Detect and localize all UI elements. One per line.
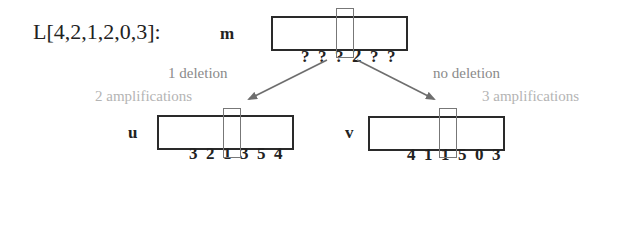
cell: 3 — [189, 144, 198, 163]
cell: 4 — [407, 145, 416, 164]
cell: 3 — [492, 145, 501, 164]
cell: 1 — [424, 145, 433, 164]
cell: 5 — [257, 144, 266, 163]
cell: 4 — [274, 144, 283, 163]
v-sequence-box: 4 1 1 5 0 3 — [368, 116, 505, 151]
deletion-text-u: 1 deletion — [168, 64, 228, 82]
v-highlight-window — [439, 108, 457, 158]
amplification-text-v: 3 amplifications — [482, 87, 579, 105]
cell: 0 — [475, 145, 484, 164]
cell-highlighted: 3 — [240, 144, 249, 163]
amplification-text-u: 2 amplifications — [95, 87, 192, 105]
arrow-to-u — [249, 60, 327, 99]
branch-label-v: v — [345, 123, 354, 143]
cell-highlighted: 5 — [458, 145, 467, 164]
u-highlight-window — [223, 108, 241, 158]
branch-label-u: u — [128, 123, 137, 143]
arrow-to-v — [357, 60, 434, 99]
deletion-text-v: no deletion — [433, 64, 500, 82]
cell: 2 — [206, 144, 215, 163]
